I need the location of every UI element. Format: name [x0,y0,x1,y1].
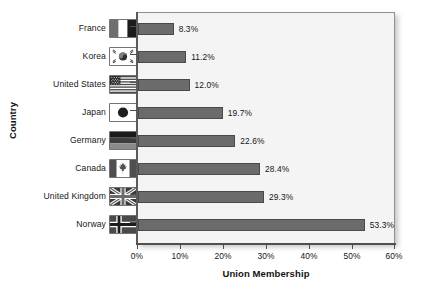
bar-united-kingdom [138,191,264,203]
category-axis: France Korea [18,14,136,242]
bar-row: 29.3% [138,183,394,211]
category-row: United States [18,70,136,98]
flag-united-states-icon [110,76,136,93]
bar-korea [138,51,186,63]
y-axis-tick [130,194,137,195]
bar-value-label: 11.2% [191,52,215,62]
category-row: Norway [18,210,136,238]
x-axis-title: Union Membership [137,268,395,279]
category-row: Korea [18,42,136,70]
y-axis-line [136,12,138,244]
bar-row: 8.3% [138,15,394,43]
category-label: United Kingdom [43,191,110,201]
y-axis-tick [130,138,137,139]
bar-value-label: 29.3% [269,192,293,202]
x-axis-tick-label: 0% [131,251,143,261]
flag-germany-icon [110,132,136,149]
bar-norway [138,219,365,231]
flag-japan-icon [110,104,136,121]
category-label: United States [53,79,110,89]
bar-germany [138,135,235,147]
x-axis-tick-label: 20% [214,251,231,261]
x-axis-tick-label: 60% [385,251,402,261]
category-label: Germany [70,135,110,145]
category-label: Canada [75,163,110,173]
x-axis-tick [394,243,395,249]
flag-france-icon [110,20,136,37]
category-label: France [79,23,110,33]
y-axis-tick [130,222,137,223]
flag-norway-icon [110,216,136,233]
x-axis-tick-label: 40% [300,251,317,261]
x-axis-tick-label: 30% [257,251,274,261]
flag-canada-icon [110,160,136,177]
category-row: Canada [18,154,136,182]
category-row: United Kingdom [18,182,136,210]
flag-korea-icon [110,48,136,65]
plot-area: 8.3% 11.2% 12.0% 19.7% 22.6% 28.4% [137,12,395,244]
bar-japan [138,107,223,119]
bar-value-label: 19.7% [228,108,252,118]
y-axis-tick [130,82,137,83]
y-axis-tick [130,110,137,111]
bars-container: 8.3% 11.2% 12.0% 19.7% 22.6% 28.4% [138,13,394,243]
x-axis-tick [223,243,224,249]
y-axis-title: Country [7,81,18,161]
y-axis-tick [130,166,137,167]
category-label: Norway [76,219,110,229]
category-label: Korea [83,51,110,61]
bar-value-label: 12.0% [195,80,219,90]
category-row: Germany [18,126,136,154]
bar-row: 22.6% [138,127,394,155]
bar-value-label: 22.6% [240,136,264,146]
x-axis-tick [309,243,310,249]
bar-value-label: 53.3% [370,220,394,230]
union-membership-bar-chart: Country France Korea [0,0,421,292]
bar-value-label: 28.4% [265,164,289,174]
bar-france [138,23,174,35]
category-label: Japan [82,107,110,117]
x-axis-tick-label: 10% [171,251,188,261]
bar-canada [138,163,260,175]
bar-row: 11.2% [138,43,394,71]
bar-row: 53.3% [138,211,394,239]
x-axis-tick [266,243,267,249]
y-axis-tick [130,26,137,27]
y-axis-tick [130,54,137,55]
category-row: Japan [18,98,136,126]
x-axis-tick [180,243,181,249]
bar-row: 28.4% [138,155,394,183]
bar-united-states [138,79,190,91]
bar-row: 12.0% [138,71,394,99]
category-row: France [18,14,136,42]
x-axis-tick-label: 50% [343,251,360,261]
bar-value-label: 8.3% [179,24,199,34]
x-axis-tick [352,243,353,249]
flag-united-kingdom-icon [110,188,136,205]
x-axis-tick [137,243,138,249]
bar-row: 19.7% [138,99,394,127]
